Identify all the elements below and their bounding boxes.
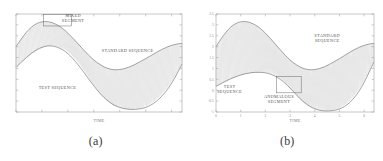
- subfigure-b: 0123456-1-0.500.511.522.533.5TIME STANDA…: [192, 0, 383, 161]
- svg-text:STANDARD SEQUENCE: STANDARD SEQUENCE: [102, 48, 154, 53]
- caption-b: (b): [192, 134, 383, 149]
- subfigure-a: TIME MIXEDSEGMENTSTANDARD SEQUENCETEST S…: [0, 0, 192, 161]
- svg-text:1: 1: [212, 67, 214, 71]
- svg-text:SEQUENCE: SEQUENCE: [217, 89, 242, 94]
- svg-text:0.5: 0.5: [209, 78, 214, 82]
- svg-text:2: 2: [212, 45, 214, 49]
- svg-text:2.5: 2.5: [209, 34, 214, 38]
- svg-text:6: 6: [363, 114, 365, 118]
- plot-b: 0123456-1-0.500.511.522.533.5TIME STANDA…: [192, 0, 383, 134]
- svg-text:SEQUENCE: SEQUENCE: [314, 38, 339, 43]
- svg-text:SEGMENT: SEGMENT: [267, 99, 289, 104]
- caption-a: (a): [0, 134, 192, 149]
- svg-text:2: 2: [264, 114, 266, 118]
- svg-text:SEGMENT: SEGMENT: [62, 18, 84, 23]
- plot-a: TIME MIXEDSEGMENTSTANDARD SEQUENCETEST S…: [0, 0, 192, 134]
- svg-text:1.5: 1.5: [209, 56, 214, 60]
- svg-text:3.5: 3.5: [209, 12, 214, 16]
- svg-text:TEST SEQUENCE: TEST SEQUENCE: [39, 85, 77, 90]
- svg-text:TIME: TIME: [94, 118, 105, 123]
- svg-text:0: 0: [212, 89, 214, 93]
- figure-root: TIME MIXEDSEGMENTSTANDARD SEQUENCETEST S…: [0, 0, 383, 161]
- svg-text:TIME: TIME: [289, 118, 300, 123]
- svg-text:0: 0: [215, 114, 217, 118]
- svg-text:5: 5: [338, 114, 340, 118]
- svg-text:-1: -1: [210, 110, 213, 114]
- svg-text:1: 1: [239, 114, 241, 118]
- svg-text:-0.5: -0.5: [208, 99, 214, 103]
- svg-text:3: 3: [212, 23, 214, 27]
- svg-text:4: 4: [313, 114, 315, 118]
